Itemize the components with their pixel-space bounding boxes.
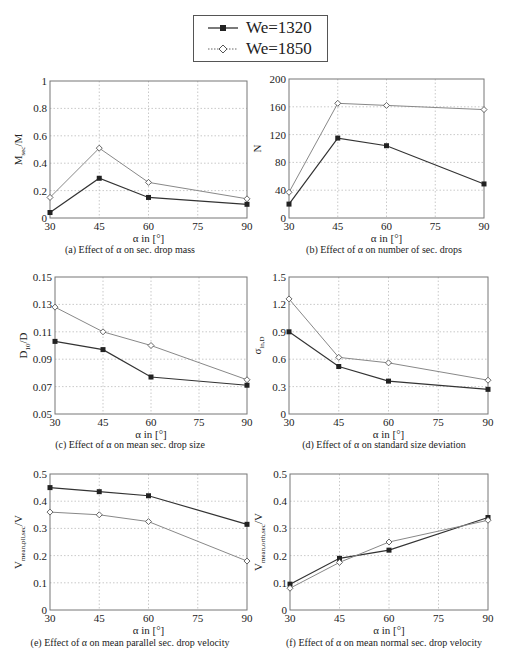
y-tick-label: 0.4 <box>273 495 287 507</box>
x-tick-label: 60 <box>384 612 396 624</box>
y-tick-label: 0.5 <box>273 468 287 480</box>
x-tick-label: 75 <box>433 612 445 624</box>
filled-square-marker-icon <box>387 548 392 553</box>
chart-panel-f: 304560759000.10.20.30.40.5α in [°]Vmean,… <box>0 0 510 662</box>
y-tick-label: 0.3 <box>273 522 287 534</box>
open-diamond-marker-icon <box>386 539 392 545</box>
x-axis-label: α in [°] <box>373 624 405 636</box>
y-tick-label: 0 <box>282 604 288 616</box>
panel-caption-f: (f) Effect of α on mean normal sec. drop… <box>264 637 504 648</box>
x-tick-label: 90 <box>483 612 495 624</box>
y-tick-label: 0.1 <box>273 577 287 589</box>
y-tick-label: 0.2 <box>273 550 287 562</box>
y-axis-label: Vmean,orth,sec/V <box>252 513 267 571</box>
x-tick-label: 45 <box>334 612 346 624</box>
